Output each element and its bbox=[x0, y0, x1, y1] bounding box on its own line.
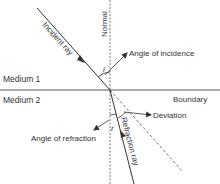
deviation-pointer bbox=[124, 112, 151, 115]
incident-ray-arrowhead bbox=[77, 55, 85, 63]
medium-2-label: Medium 2 bbox=[3, 95, 41, 105]
refraction-ray-label: Refraction ray bbox=[119, 116, 141, 166]
normal-label: Normal bbox=[100, 11, 109, 37]
angle-of-refraction-arc bbox=[110, 114, 116, 115]
deviation-label: Deviation bbox=[153, 111, 186, 120]
refraction-diagram: i r Angle of incidence Deviation Angle o… bbox=[0, 0, 220, 184]
angle-of-refraction-label: Angle of refraction bbox=[31, 134, 96, 143]
angle-of-incidence-label: Angle of incidence bbox=[129, 49, 195, 58]
incident-ray-label: Incident ray bbox=[41, 20, 75, 57]
angle-of-refraction-pointer bbox=[94, 120, 109, 130]
angle-of-incidence-pointer bbox=[105, 53, 127, 75]
angle-r-label: r bbox=[111, 124, 114, 133]
medium-1-label: Medium 1 bbox=[3, 74, 41, 84]
boundary-label: Boundary bbox=[173, 95, 207, 104]
angle-i-label: i bbox=[103, 65, 105, 74]
